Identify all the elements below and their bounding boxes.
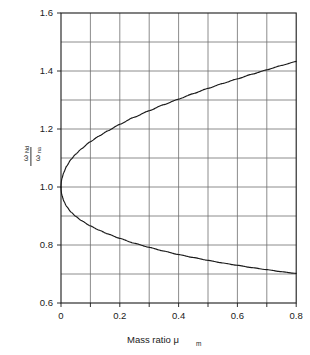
y-tick-label-0p8: 0.8 (40, 239, 53, 250)
y-tick-label-1p0: 1.0 (40, 181, 53, 192)
y-tick-label-0p6: 0.6 (40, 297, 53, 308)
x-tick-label-0p2: 0.2 (113, 310, 126, 321)
x-axis-title-main: Mass ratio μ (127, 334, 179, 345)
y-axis-title-denominator: ω (33, 155, 42, 161)
y-tick-label-1p4: 1.4 (40, 65, 53, 76)
chart-figure: 0 0.2 0.4 0.6 0.8 0.6 0.8 1.0 1.2 1.4 1.… (0, 0, 310, 355)
y-tick-label-1p6: 1.6 (40, 7, 53, 18)
y-axis-title-denominator-subscript: na (36, 146, 42, 153)
x-axis-title-subscript: m (196, 340, 201, 347)
y-tick-label-1p2: 1.2 (40, 123, 53, 134)
y-axis-title-numerator: ω (21, 155, 30, 161)
x-tick-label-0: 0 (58, 310, 63, 321)
frequency-ratio-chart: 0 0.2 0.4 0.6 0.8 0.6 0.8 1.0 1.2 1.4 1.… (0, 0, 310, 355)
x-tick-label-0p4: 0.4 (172, 310, 185, 321)
x-tick-label-0p8: 0.8 (290, 310, 303, 321)
x-tick-label-0p6: 0.6 (231, 310, 244, 321)
y-axis-title-numerator-subscript: Nd (24, 146, 30, 153)
